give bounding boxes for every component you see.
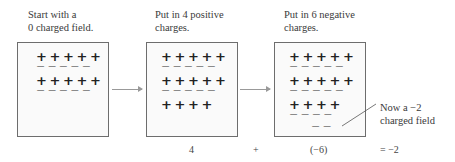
extra-negative-charges-row: − − bbox=[311, 123, 332, 131]
panel-3-caption: Put in 6 negative charges. bbox=[284, 8, 355, 34]
panel-2-field-box: + + + + + − − − − − + + + + + − − − − − … bbox=[146, 42, 238, 137]
equation-operator: + bbox=[253, 144, 259, 155]
annotation: Now a −2 charged field bbox=[380, 101, 435, 127]
panel-2-caption-line1: Put in 4 positive bbox=[155, 8, 224, 21]
panel-1-field-box: + + + + + − − − − − + + + + + − − − − − bbox=[17, 42, 109, 137]
annotation-line1: Now a −2 bbox=[380, 101, 435, 114]
panel-2-caption: Put in 4 positive charges. bbox=[155, 8, 224, 34]
negative-charges-row: − − − − − bbox=[289, 63, 344, 71]
positive-charges-row: + + + + bbox=[161, 99, 212, 111]
panel-3-caption-line2: charges. bbox=[284, 21, 355, 34]
panel-2-caption-line2: charges. bbox=[155, 21, 224, 34]
negative-charges-row: − − − − − bbox=[289, 87, 344, 95]
panel-1-caption: Start with a 0 charged field. bbox=[28, 8, 93, 34]
annotation-line2: charged field bbox=[380, 114, 435, 127]
equation-term2: (−6) bbox=[310, 144, 327, 155]
equation-term1: 4 bbox=[189, 144, 194, 155]
annotation-leader-line bbox=[340, 100, 380, 130]
equation-result: = −2 bbox=[380, 144, 399, 155]
negative-charges-row: − − − − − bbox=[36, 63, 91, 71]
panel-1-caption-line1: Start with a bbox=[28, 8, 93, 21]
arrow-icon bbox=[240, 89, 270, 90]
negative-charges-row: − − − − − bbox=[161, 87, 216, 95]
panel-3-caption-line1: Put in 6 negative bbox=[284, 8, 355, 21]
negative-charges-row: − − − − − bbox=[36, 87, 91, 95]
negative-charges-row: − − − − − bbox=[161, 63, 216, 71]
arrow-icon bbox=[112, 89, 142, 90]
negative-charges-row: − − − − bbox=[289, 111, 332, 119]
panel-1-caption-line2: 0 charged field. bbox=[28, 21, 93, 34]
